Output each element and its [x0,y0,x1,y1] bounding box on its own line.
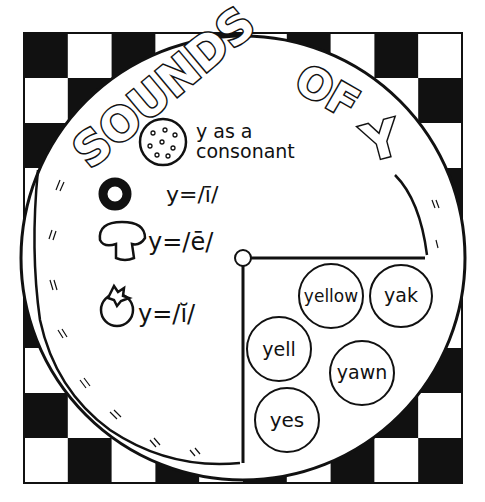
checker-square [24,33,68,79]
black-olive-icon [103,182,127,206]
word-circle-yes[interactable]: yes [255,388,319,452]
svg-text:yell: yell [262,338,296,360]
legend-consonant-line1: y as a [196,120,253,142]
checker-square [68,438,112,484]
word-circle-yellow[interactable]: yellow [299,264,363,328]
legend-long-i: y=/ī/ [166,182,219,207]
center-pin [235,250,251,266]
svg-text:yawn: yawn [337,361,387,383]
svg-text:yellow: yellow [304,286,358,306]
checker-square [68,33,112,79]
checker-square [24,78,68,124]
legend-short-i: y=/ĭ/ [138,300,196,328]
pepperoni-cookie-icon [140,119,186,165]
checker-square [374,33,418,79]
checker-square [418,78,462,124]
checker-square [418,393,462,439]
checker-square [24,438,68,484]
checker-square [374,438,418,484]
word-circle-yawn[interactable]: yawn [330,341,394,405]
legend-consonant-line2: consonant [196,140,295,162]
svg-text:yes: yes [270,408,305,432]
word-circle-yak[interactable]: yak [370,265,432,327]
checker-square [418,33,462,79]
word-circle-yell[interactable]: yell [247,317,311,381]
checker-square [24,393,68,439]
legend-long-e: y=/ē/ [148,228,214,256]
sounds-of-y-pizza-worksheet: SOUNDS OF Y y as a consonant y=/ī/ y=/ē/ [0,0,485,502]
checker-square [418,438,462,484]
svg-text:yak: yak [384,284,418,306]
